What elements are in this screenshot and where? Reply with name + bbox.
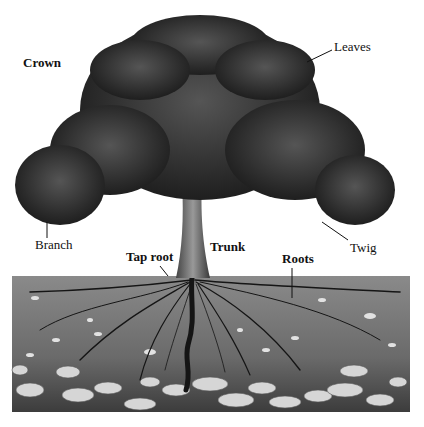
tree-illustration [0,0,424,427]
label-trunk: Trunk [210,239,245,255]
label-branch: Branch [35,237,73,253]
label-twig: Twig [350,240,377,256]
soil-cross-section [12,276,410,412]
label-roots: Roots [282,251,314,267]
label-crown: Crown [23,55,61,71]
label-tap-root: Tap root [126,249,173,265]
label-leaves: Leaves [334,39,371,55]
tree-diagram: Crown Leaves Branch Twig Tap root Trunk … [0,0,424,427]
